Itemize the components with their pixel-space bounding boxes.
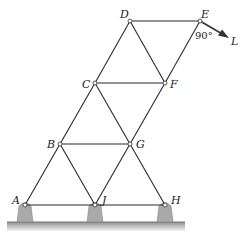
member-cg xyxy=(95,83,130,144)
joint-a xyxy=(23,203,27,207)
member-bc xyxy=(60,83,95,144)
joint-b xyxy=(58,142,62,146)
label-d: D xyxy=(119,8,129,21)
joint-c xyxy=(93,81,97,85)
truss-diagram: A B C D E F G H J L 90° xyxy=(0,0,248,243)
label-b: B xyxy=(46,138,55,151)
label-angle: 90° xyxy=(195,30,213,41)
label-c: C xyxy=(82,78,91,91)
member-gf xyxy=(130,83,165,144)
truss-members xyxy=(25,21,200,205)
ground xyxy=(7,222,185,231)
joint-g xyxy=(128,142,132,146)
member-jg xyxy=(95,144,130,205)
joint-j xyxy=(93,203,97,207)
label-j: J xyxy=(100,194,107,207)
member-cd xyxy=(95,21,130,83)
label-a: A xyxy=(11,194,20,207)
label-h: H xyxy=(170,194,181,207)
label-e: E xyxy=(200,8,209,21)
label-load: L xyxy=(230,35,238,48)
joint-h xyxy=(163,203,167,207)
member-ab xyxy=(25,144,60,205)
member-gh xyxy=(130,144,165,205)
member-bj xyxy=(60,144,95,205)
joint-f xyxy=(163,81,167,85)
member-df xyxy=(130,21,165,83)
label-g: G xyxy=(136,138,145,151)
label-f: F xyxy=(169,78,178,91)
